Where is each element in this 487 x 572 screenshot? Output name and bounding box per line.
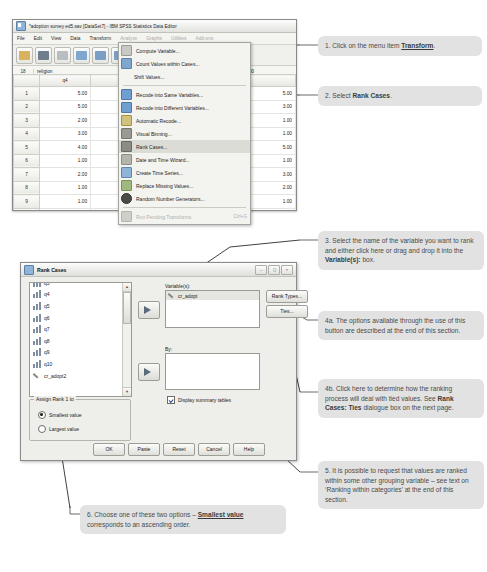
ok-button[interactable]: OK [93, 443, 125, 456]
dialog-button-row[interactable]: OK Paste Reset Cancel Help [93, 443, 265, 456]
variables-item[interactable]: cr_adopt [166, 291, 259, 300]
cancel-button[interactable]: Cancel [198, 443, 230, 456]
grid-cell-q4[interactable]: 1.00 [40, 154, 91, 168]
maximize-button[interactable]: ◻ [268, 265, 280, 275]
list-item[interactable]: q4 [30, 289, 131, 301]
callout-step-2: 2. Select Rank Cases. [318, 86, 482, 106]
menu-data[interactable]: Data [70, 36, 80, 41]
menu-transform[interactable]: Transform [89, 36, 111, 41]
menu-addons[interactable]: Add-ons [195, 36, 213, 41]
menu-item-compute-variable[interactable]: Compute Variable... [119, 44, 250, 57]
grid-cell-right[interactable]: 2.00 [244, 181, 295, 195]
rank-types-button[interactable]: Rank Types... [266, 290, 308, 303]
paste-button[interactable]: Paste [128, 443, 160, 456]
callout-4b-suffix: dialogue box on the next page. [362, 404, 454, 411]
menu-utilities[interactable]: Utilities [171, 36, 186, 41]
grid-cell-q4[interactable]: 2.00 [40, 208, 91, 210]
reset-button[interactable]: Reset [163, 443, 195, 456]
menu-item-create-time-series[interactable]: Create Time Series... [119, 166, 250, 179]
menu-view[interactable]: View [51, 36, 61, 41]
menu-item-random-number-generators[interactable]: Random Number Generators... [119, 192, 250, 205]
variable-list-scrollbar[interactable]: ▲ ▼ [122, 283, 131, 396]
display-summary-tables-checkbox[interactable]: Display summary tables [167, 396, 231, 404]
grid-cell-right[interactable]: 5.00 [244, 141, 295, 155]
grid-cell-q4[interactable]: 1.00 [40, 195, 91, 209]
grid-row-number[interactable]: 4 [14, 127, 40, 141]
ties-button[interactable]: Ties... [266, 305, 308, 318]
variables-listbox[interactable]: cr_adopt [165, 290, 260, 328]
grid-cell-right[interactable]: 1.00 [244, 114, 295, 128]
menu-item-shortcut: Ctrl+G [234, 214, 247, 219]
scrollbar-thumb[interactable] [123, 292, 131, 324]
menu-item-label: Compute Variable... [136, 48, 180, 54]
grid-cell-right[interactable]: 3.00 [244, 208, 295, 210]
move-to-variables-button[interactable] [138, 301, 160, 319]
window-controls[interactable]: – ◻ × [255, 265, 293, 275]
menu-graphs[interactable]: Graphs [146, 36, 162, 41]
list-item[interactable]: cr_adopt2 [30, 370, 131, 382]
menu-item-rank-cases[interactable]: Rank Cases... [119, 140, 250, 153]
list-item[interactable]: q6 [30, 312, 131, 324]
save-icon[interactable] [35, 47, 52, 64]
menu-file[interactable]: File [17, 36, 25, 41]
grid-row-number[interactable]: 5 [14, 141, 40, 155]
radio-smallest-value[interactable]: Smallest value [38, 411, 82, 419]
menu-item-automatic-recode[interactable]: Automatic Recode... [119, 114, 250, 127]
list-item[interactable]: q3 [30, 282, 131, 289]
by-listbox[interactable] [165, 353, 260, 390]
grid-column-header-5[interactable] [244, 75, 295, 87]
callout-4b-prefix: 4b. Click here to determine how the rank… [325, 385, 452, 402]
menu-item-label: Visual Binning... [136, 131, 172, 137]
grid-cell-right[interactable]: 3.00 [244, 168, 295, 182]
grid-row-number[interactable]: 6 [14, 154, 40, 168]
move-to-by-button[interactable] [138, 363, 160, 381]
menu-item-shift-values[interactable]: Shift Values... [119, 70, 250, 83]
grid-cell-right[interactable]: 1.00 [244, 127, 295, 141]
menu-item-recode-into-same-variables[interactable]: Recode into Same Variables... [119, 88, 250, 101]
grid-row-number[interactable]: 7 [14, 168, 40, 182]
menu-analyze[interactable]: Analyze [120, 36, 137, 41]
list-item[interactable]: q9 [30, 347, 131, 359]
help-button[interactable]: Help [233, 443, 265, 456]
grid-cell-q4[interactable]: 3.00 [40, 127, 91, 141]
minimize-button[interactable]: – [255, 265, 267, 275]
grid-cell-q4[interactable]: 2.00 [40, 114, 91, 128]
list-item[interactable]: q8 [30, 335, 131, 347]
grid-row-number[interactable]: 8 [14, 181, 40, 195]
grid-cell-q4[interactable]: 1.00 [40, 181, 91, 195]
grid-row-number[interactable]: 1 [14, 87, 40, 101]
list-item[interactable]: q5 [30, 300, 131, 312]
menu-edit[interactable]: Edit [34, 36, 42, 41]
grid-cell-q4[interactable]: 5.00 [40, 100, 91, 114]
grid-cell-right[interactable]: 3.00 [244, 100, 295, 114]
grid-cell-right[interactable]: 1.00 [244, 195, 295, 209]
list-item[interactable]: q7 [30, 323, 131, 335]
menu-item-replace-missing-values[interactable]: Replace Missing Values... [119, 179, 250, 192]
menu-item-date-and-time-wizard[interactable]: Date and Time Wizard... [119, 153, 250, 166]
grid-cell-q4[interactable]: 5.00 [40, 87, 91, 101]
grid-cell-right[interactable]: 1.00 [244, 154, 295, 168]
undo-icon[interactable] [92, 47, 109, 64]
grid-cell-right[interactable]: 5.00 [244, 87, 295, 101]
grid-column-header-q4[interactable]: q4 [40, 75, 91, 87]
list-item[interactable]: q10 [30, 358, 131, 370]
grid-cell-q4[interactable]: 4.00 [40, 141, 91, 155]
scroll-up-arrow-icon[interactable]: ▲ [123, 283, 131, 292]
menu-item-count-values-within-cases[interactable]: Count Values within Cases... [119, 57, 250, 70]
recall-dialog-icon[interactable] [73, 47, 90, 64]
menu-item-visual-binning[interactable]: Visual Binning... [119, 127, 250, 140]
grid-row-number[interactable]: 9 [14, 195, 40, 209]
grid-row-number[interactable]: 10 [14, 208, 40, 210]
source-variable-list[interactable]: q3q4q5q6q7q8q9q10cr_adopt2 ▲ ▼ [29, 282, 132, 397]
menu-item-recode-into-different-variables[interactable]: Recode into Different Variables... [119, 101, 250, 114]
close-button[interactable]: × [281, 265, 293, 275]
open-file-icon[interactable] [16, 47, 33, 64]
radio-largest-value[interactable]: Largest value [38, 425, 79, 433]
scroll-down-arrow-icon[interactable]: ▼ [123, 387, 131, 396]
grid-row-number[interactable]: 2 [14, 100, 40, 114]
print-icon[interactable] [54, 47, 71, 64]
grid-row-number[interactable]: 3 [14, 114, 40, 128]
grid-cell-q4[interactable]: 2.00 [40, 168, 91, 182]
radio-button [38, 425, 46, 433]
transform-dropdown-menu[interactable]: Compute Variable...Count Values within C… [118, 42, 251, 225]
